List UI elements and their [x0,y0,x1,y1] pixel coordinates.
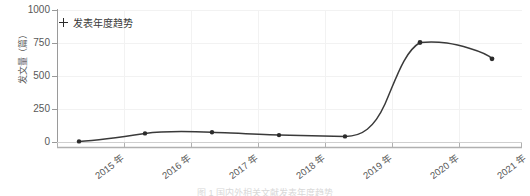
data-point [418,40,423,45]
legend-label: 发表年度趋势 [73,15,133,30]
data-point [343,134,347,138]
line-chart: 发文量（篇） 1000 750 500 250 0 [0,0,530,196]
y-tick-label: 0 [44,137,50,147]
y-tick-label: 1000 [28,5,50,15]
y-tick-label: 750 [33,38,50,48]
data-point [210,130,214,134]
y-axis-tick-labels: 1000 750 500 250 0 [0,0,50,196]
diamond-plus-marker-icon [59,18,68,27]
data-point-markers [77,40,495,143]
data-point [77,139,81,143]
chart-legend[interactable]: 发表年度趋势 [59,15,133,30]
y-axis-ticks [52,11,58,143]
data-line-series-0 [79,42,492,141]
data-point [490,56,495,61]
figure-caption: 图 1 国内外相关文献发表年度趋势 [0,186,530,196]
y-tick-label: 500 [33,71,50,81]
data-point [143,131,147,135]
data-point [277,133,281,137]
y-tick-label: 250 [33,104,50,114]
